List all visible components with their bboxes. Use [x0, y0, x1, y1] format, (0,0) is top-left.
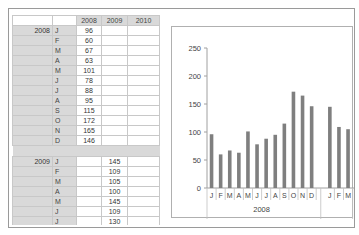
year-label-cell[interactable]	[13, 177, 53, 187]
value-cell-2008[interactable]	[77, 207, 102, 217]
value-cell-2010[interactable]	[128, 86, 160, 96]
value-cell-2008[interactable]: 115	[77, 106, 102, 116]
value-cell-2010[interactable]	[128, 36, 160, 46]
year-label-cell[interactable]	[13, 66, 53, 76]
value-cell-2008[interactable]	[77, 197, 102, 207]
value-cell-2010[interactable]	[128, 197, 160, 207]
value-cell-2008[interactable]: 165	[77, 126, 102, 136]
value-cell-2009[interactable]: 100	[102, 187, 128, 197]
month-label-cell[interactable]: M	[53, 197, 77, 207]
month-label-cell[interactable]: J	[53, 207, 77, 217]
table-row: A100	[13, 187, 160, 197]
value-cell-2009[interactable]: 105	[102, 177, 128, 187]
value-cell-2009[interactable]	[102, 26, 128, 36]
value-cell-2008[interactable]: 78	[77, 76, 102, 86]
year-label-cell[interactable]	[13, 106, 53, 116]
month-label-cell[interactable]: D	[53, 136, 77, 146]
month-label-cell[interactable]: J	[53, 157, 77, 167]
value-cell-2010[interactable]	[128, 56, 160, 66]
value-cell-2010[interactable]	[128, 76, 160, 86]
value-cell-2010[interactable]	[128, 187, 160, 197]
year-label-cell[interactable]	[13, 187, 53, 197]
value-cell-2009[interactable]	[102, 126, 128, 136]
value-cell-2010[interactable]	[128, 116, 160, 126]
year-label-cell[interactable]	[13, 197, 53, 207]
year-label-cell[interactable]	[13, 46, 53, 56]
value-cell-2008[interactable]: 60	[77, 36, 102, 46]
month-label-cell[interactable]: M	[53, 46, 77, 56]
year-label-cell[interactable]	[13, 136, 53, 146]
year-label-cell[interactable]: 2009	[13, 157, 53, 167]
value-cell-2010[interactable]	[128, 136, 160, 146]
month-label-cell[interactable]: A	[53, 56, 77, 66]
value-cell-2009[interactable]: 130	[102, 217, 128, 226]
value-cell-2010[interactable]	[128, 46, 160, 56]
value-cell-2009[interactable]	[102, 66, 128, 76]
month-label-cell[interactable]: O	[53, 116, 77, 126]
value-cell-2008[interactable]: 172	[77, 116, 102, 126]
month-label-cell[interactable]: J	[53, 76, 77, 86]
column-header-2010[interactable]: 2010	[128, 16, 160, 26]
value-cell-2009[interactable]	[102, 86, 128, 96]
value-cell-2008[interactable]	[77, 187, 102, 197]
value-cell-2008[interactable]: 146	[77, 136, 102, 146]
column-header-2009[interactable]: 2009	[102, 16, 128, 26]
value-cell-2009[interactable]	[102, 96, 128, 106]
value-cell-2010[interactable]	[128, 177, 160, 187]
year-label-cell[interactable]	[13, 207, 53, 217]
month-label-cell[interactable]: S	[53, 106, 77, 116]
value-cell-2008[interactable]: 101	[77, 66, 102, 76]
month-label-cell[interactable]: J	[53, 217, 77, 226]
month-label-cell[interactable]: J	[53, 86, 77, 96]
month-label-cell[interactable]: M	[53, 177, 77, 187]
year-label-cell[interactable]	[13, 116, 53, 126]
value-cell-2009[interactable]: 109	[102, 207, 128, 217]
value-cell-2008[interactable]: 96	[77, 26, 102, 36]
value-cell-2008[interactable]: 67	[77, 46, 102, 56]
month-label-cell[interactable]: J	[53, 26, 77, 36]
value-cell-2010[interactable]	[128, 106, 160, 116]
value-cell-2008[interactable]	[77, 177, 102, 187]
year-label-cell[interactable]	[13, 167, 53, 177]
month-label-cell[interactable]: F	[53, 36, 77, 46]
value-cell-2009[interactable]	[102, 116, 128, 126]
year-label-cell[interactable]	[13, 36, 53, 46]
value-cell-2010[interactable]	[128, 96, 160, 106]
value-cell-2008[interactable]	[77, 167, 102, 177]
value-cell-2008[interactable]: 63	[77, 56, 102, 66]
value-cell-2009[interactable]: 109	[102, 167, 128, 177]
month-label-cell[interactable]: F	[53, 167, 77, 177]
value-cell-2009[interactable]: 145	[102, 157, 128, 167]
value-cell-2009[interactable]	[102, 36, 128, 46]
value-cell-2009[interactable]	[102, 136, 128, 146]
year-label-cell[interactable]	[13, 96, 53, 106]
value-cell-2010[interactable]	[128, 217, 160, 226]
value-cell-2010[interactable]	[128, 26, 160, 36]
value-cell-2010[interactable]	[128, 126, 160, 136]
year-label-cell[interactable]	[13, 217, 53, 226]
value-cell-2008[interactable]	[77, 157, 102, 167]
month-label-cell[interactable]: A	[53, 187, 77, 197]
value-cell-2009[interactable]: 145	[102, 197, 128, 207]
value-cell-2010[interactable]	[128, 207, 160, 217]
value-cell-2010[interactable]	[128, 167, 160, 177]
year-label-cell[interactable]: 2008	[13, 26, 53, 36]
value-cell-2008[interactable]	[77, 217, 102, 226]
year-label-cell[interactable]	[13, 56, 53, 66]
value-cell-2010[interactable]	[128, 66, 160, 76]
month-label-cell[interactable]: M	[53, 66, 77, 76]
column-chart[interactable]: 050100150200250JFMAMJJASOND2008JFM	[171, 26, 353, 218]
value-cell-2009[interactable]	[102, 46, 128, 56]
value-cell-2010[interactable]	[128, 157, 160, 167]
month-label-cell[interactable]: A	[53, 96, 77, 106]
month-label-cell[interactable]: N	[53, 126, 77, 136]
year-label-cell[interactable]	[13, 126, 53, 136]
value-cell-2008[interactable]: 95	[77, 96, 102, 106]
value-cell-2009[interactable]	[102, 56, 128, 66]
year-label-cell[interactable]	[13, 86, 53, 96]
value-cell-2009[interactable]	[102, 106, 128, 116]
value-cell-2009[interactable]	[102, 76, 128, 86]
value-cell-2008[interactable]: 88	[77, 86, 102, 96]
column-header-2008[interactable]: 2008	[77, 16, 102, 26]
year-label-cell[interactable]	[13, 76, 53, 86]
